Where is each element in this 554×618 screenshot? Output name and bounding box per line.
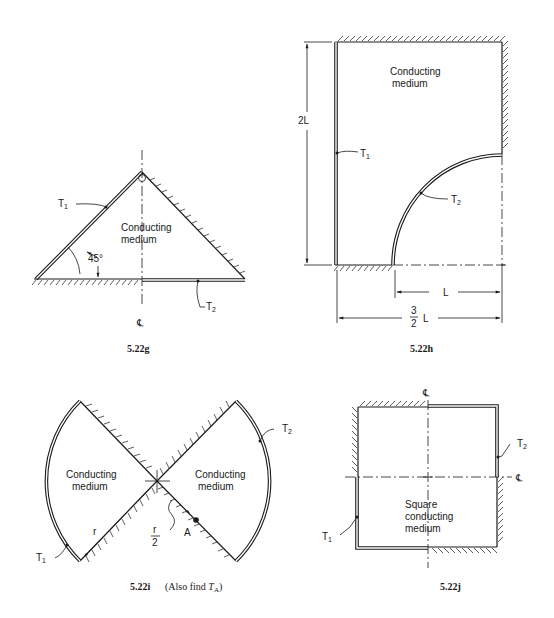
radius-label: r — [93, 526, 97, 537]
dimension-three-halves-label: 3 2 L — [410, 305, 429, 329]
svg-text:r: r — [153, 524, 157, 535]
figure-5-22j: ℄ ℄ T2 T1 Square conducting medium 5.22j — [322, 387, 527, 592]
t1-label: T1 — [322, 531, 332, 543]
insulated-top-left-edge — [352, 401, 428, 477]
insulated-bottom-edge — [334, 265, 393, 271]
svg-text:2: 2 — [152, 537, 158, 548]
t1-label: T1 — [36, 552, 46, 564]
insulated-right-edge — [502, 41, 508, 155]
figure-caption: 5.22g — [127, 343, 150, 354]
right-medium-label-line1: Conducting — [195, 469, 246, 480]
right-medium-label-line2: medium — [198, 481, 234, 492]
svg-text:2: 2 — [411, 318, 417, 329]
t1-label: T1 — [58, 198, 68, 210]
figure-5-22g: 45° T1 T2 Conducting medium ℄ 5.22g — [32, 150, 245, 354]
figure-caption: 5.22j — [440, 581, 461, 592]
figure-5-22h: 2L L 3 2 L T1 T2 Conducting medium 5.22h — [298, 36, 508, 354]
dimension-height-label: 2L — [298, 115, 310, 126]
left-medium-label-line2: medium — [72, 481, 108, 492]
centerline-horizontal-symbol: ℄ — [515, 472, 523, 483]
figure-caption: 5.22i — [130, 581, 151, 592]
point-a-label: A — [184, 527, 191, 538]
insulated-base-left — [32, 279, 142, 285]
half-radius-arrow — [162, 486, 190, 514]
figure-sheet: 45° T1 T2 Conducting medium ℄ 5.22g — [0, 0, 554, 618]
dimension-l-label: L — [443, 287, 449, 298]
medium-label-line1: Conducting — [121, 222, 172, 233]
centerline-symbol: ℄ — [136, 317, 144, 328]
figure-caption-note: (Also find TA) — [165, 581, 222, 594]
boundary-t2-right-arc — [236, 401, 270, 561]
insulated-top-edge — [335, 36, 505, 42]
svg-text:3: 3 — [411, 305, 417, 316]
t2-label: T2 — [206, 301, 216, 313]
angle-label: 45° — [88, 253, 103, 264]
medium-label-line3: medium — [405, 523, 441, 534]
boundary-t2-top-right — [428, 406, 497, 477]
boundary-t2-arc — [393, 155, 502, 265]
centerline-vertical-symbol: ℄ — [422, 387, 430, 398]
half-radius-label: r 2 — [151, 524, 160, 548]
svg-text:L: L — [423, 313, 429, 324]
medium-label-line2: medium — [121, 234, 157, 245]
angle-arc — [68, 247, 80, 274]
medium-label-line2: medium — [392, 78, 428, 89]
left-medium-label-line1: Conducting — [66, 469, 117, 480]
figure-caption: 5.22h — [410, 343, 434, 354]
t1-label: T1 — [360, 148, 370, 160]
t2-label: T2 — [282, 423, 292, 435]
medium-label-line2: conducting — [405, 511, 453, 522]
t2-label: T2 — [451, 194, 461, 206]
radius-arrow — [84, 488, 150, 557]
medium-label-line1: Square — [405, 499, 438, 510]
medium-label-line1: Conducting — [390, 66, 441, 77]
t2-label: T2 — [517, 438, 527, 450]
figure-5-22i: r A r 2 T1 T2 Conducting medium Conducti… — [36, 401, 292, 594]
point-a-marker — [193, 517, 199, 523]
